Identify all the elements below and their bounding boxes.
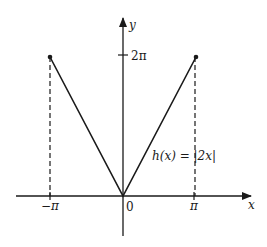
x-axis-label: x [248,198,255,212]
two-pi-label: 2π [131,49,147,63]
function-label: h(x) = |2x| [152,149,216,163]
graph-svg: y x 2π 0 −π π h(x) = |2x| [0,0,267,247]
endpoint-right [194,55,199,60]
neg-pi-label: −π [41,199,60,213]
y-axis-label: y [128,18,136,32]
origin-label: 0 [126,200,134,214]
pi-label: π [189,199,199,213]
graph-figure: y x 2π 0 −π π h(x) = |2x| [0,0,267,247]
endpoint-left [48,55,53,60]
